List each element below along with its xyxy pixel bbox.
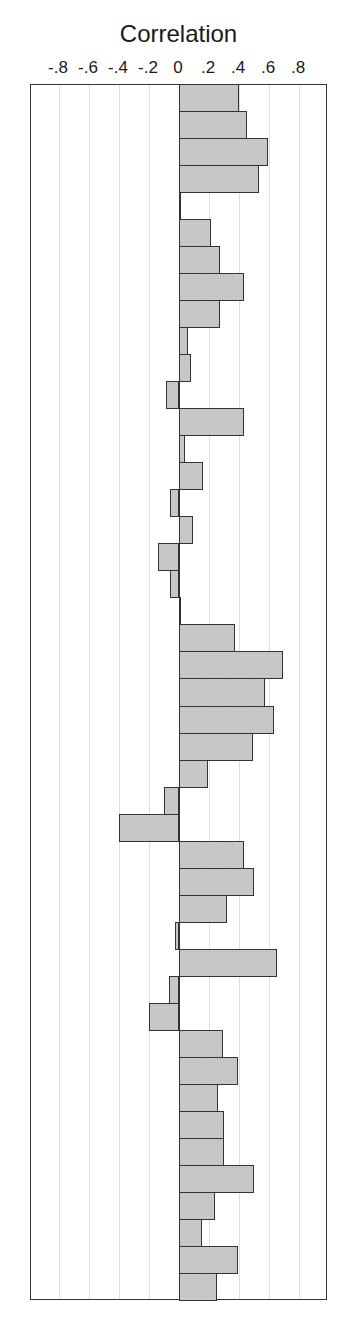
bar (179, 678, 265, 706)
bar (179, 624, 235, 652)
bar (179, 408, 244, 436)
bar (169, 976, 180, 1004)
bar (179, 895, 227, 923)
bar (179, 138, 268, 166)
x-tick-label: -.2 (138, 58, 158, 78)
bar (179, 1030, 223, 1058)
gridline (119, 85, 120, 1299)
x-axis-tick-labels: -.8-.6-.4-.20.2.4.6.8 (0, 58, 349, 82)
x-tick-label: .8 (291, 58, 305, 78)
bar (179, 1111, 224, 1139)
bar (166, 381, 180, 409)
bar (179, 111, 247, 139)
x-tick-label: .4 (231, 58, 245, 78)
x-tick-label: -.6 (78, 58, 98, 78)
plot-area (30, 84, 327, 1300)
bar (179, 1057, 238, 1085)
gridline (299, 85, 300, 1299)
bar (179, 1219, 202, 1247)
bar (179, 651, 283, 679)
zero-axis-line (179, 85, 180, 1299)
bar (179, 219, 211, 247)
bar (179, 706, 274, 734)
bar (179, 300, 220, 328)
bar (164, 787, 179, 815)
bar (179, 841, 244, 869)
bar (179, 165, 259, 193)
gridline (59, 85, 60, 1299)
bar (179, 273, 244, 301)
bar (179, 1138, 224, 1166)
x-tick-label: .2 (201, 58, 215, 78)
x-tick-label: .6 (261, 58, 275, 78)
bar (179, 1246, 238, 1274)
bar (179, 327, 188, 355)
x-tick-label: -.4 (108, 58, 128, 78)
bar (179, 868, 254, 896)
chart-title: Correlation (0, 20, 349, 48)
bar (179, 516, 193, 544)
bar (179, 949, 277, 977)
bar (170, 489, 179, 517)
bar (179, 1192, 215, 1220)
bar (179, 462, 203, 490)
bar (179, 1165, 254, 1193)
bar (170, 570, 179, 598)
x-tick-label: 0 (173, 58, 182, 78)
bar (179, 1084, 218, 1112)
bar (179, 84, 239, 112)
gridline (89, 85, 90, 1299)
bar (179, 246, 220, 274)
bar (149, 1003, 179, 1031)
bar (179, 733, 253, 761)
gridline (269, 85, 270, 1299)
gridline (149, 85, 150, 1299)
bar (179, 760, 208, 788)
bar (179, 1273, 217, 1301)
bar (158, 543, 179, 571)
x-tick-label: -.8 (48, 58, 68, 78)
bar (119, 814, 179, 842)
bar (179, 354, 191, 382)
